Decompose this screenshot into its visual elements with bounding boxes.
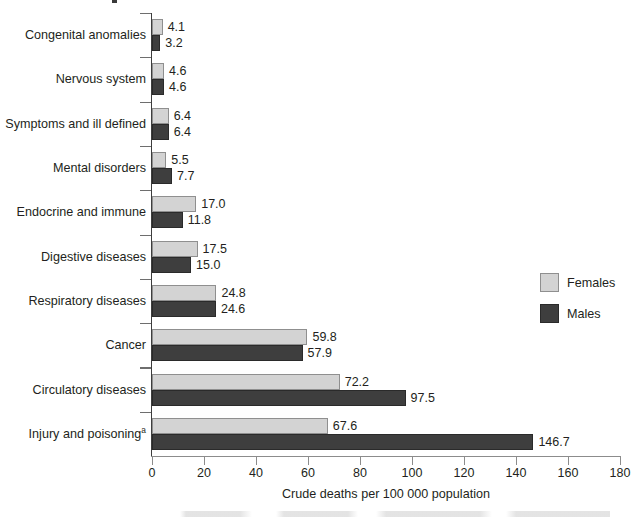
bar-value-label: 6.4 — [174, 125, 191, 139]
y-axis-category-label: Respiratory diseases — [28, 294, 146, 308]
x-axis-line — [151, 456, 621, 457]
x-axis-tick-label: 160 — [558, 466, 579, 480]
x-axis-tick-label: 100 — [402, 466, 423, 480]
bar-females — [152, 418, 328, 434]
bar-females — [152, 374, 340, 390]
x-axis-tick-label: 140 — [506, 466, 527, 480]
bar-value-label: 4.1 — [168, 20, 185, 34]
y-axis-tick — [140, 13, 151, 14]
bar-value-label: 4.6 — [169, 80, 186, 94]
bar-males — [152, 345, 303, 361]
bar-males — [152, 257, 191, 273]
bar-males — [152, 301, 216, 317]
x-axis-tick — [152, 457, 153, 465]
y-axis-tick — [140, 367, 151, 368]
x-axis-tick — [308, 457, 309, 465]
y-axis-tick — [140, 235, 151, 236]
chart-page: Congenital anomaliesNervous systemSympto… — [0, 0, 641, 519]
y-axis-category-label: Injury and poisoninga — [29, 427, 146, 441]
bar-males — [152, 79, 164, 95]
y-axis-category-label: Digestive diseases — [41, 250, 146, 264]
bar-females — [152, 108, 169, 124]
bar-males — [152, 212, 183, 228]
bar-females — [152, 19, 163, 35]
bar-males — [152, 168, 172, 184]
x-axis-tick-label: 60 — [301, 466, 315, 480]
bar-value-label: 6.4 — [174, 109, 191, 123]
cropped-caption-artifact — [180, 511, 610, 517]
y-axis-category-label: Nervous system — [56, 72, 146, 86]
bar-value-label: 5.5 — [171, 153, 188, 167]
bar-value-label: 17.0 — [201, 197, 225, 211]
y-axis-tick — [140, 102, 151, 103]
legend-swatch-females-icon — [540, 273, 559, 292]
x-axis-title: Crude deaths per 100 000 population — [152, 487, 620, 501]
y-axis-category-label: Mental disorders — [53, 161, 146, 175]
bar-value-label: 59.8 — [312, 330, 336, 344]
bar-males — [152, 35, 160, 51]
x-axis-tick — [360, 457, 361, 465]
bar-value-label: 57.9 — [308, 346, 332, 360]
bar-value-label: 17.5 — [203, 242, 227, 256]
bar-value-label: 24.6 — [221, 302, 245, 316]
legend-label-males: Males — [567, 307, 601, 321]
bar-males — [152, 434, 533, 450]
y-axis-category-labels: Congenital anomaliesNervous systemSympto… — [0, 0, 146, 519]
bar-males — [152, 124, 169, 140]
bar-males — [152, 390, 406, 406]
bar-value-label: 4.6 — [169, 64, 186, 78]
bar-value-label: 146.7 — [538, 435, 569, 449]
bar-females — [152, 285, 216, 301]
y-axis-tick — [140, 279, 151, 280]
x-axis-tick — [204, 457, 205, 465]
bar-value-label: 7.7 — [177, 169, 194, 183]
y-axis-tick — [140, 412, 151, 413]
y-axis-category-label: Symptoms and ill defined — [5, 117, 146, 131]
bar-females — [152, 152, 166, 168]
y-axis-tick — [140, 146, 151, 147]
bar-value-label: 24.8 — [221, 286, 245, 300]
y-axis-category-label: Circulatory diseases — [33, 383, 146, 397]
bar-females — [152, 241, 198, 257]
y-axis-category-label: Endocrine and immune — [16, 205, 146, 219]
bar-value-label: 15.0 — [196, 258, 220, 272]
legend-item-males: Males — [540, 304, 615, 323]
x-axis-tick — [464, 457, 465, 465]
x-axis-tick — [620, 457, 621, 465]
x-axis-tick-label: 40 — [249, 466, 263, 480]
x-axis-tick-label: 180 — [610, 466, 631, 480]
bar-value-label: 72.2 — [345, 375, 369, 389]
bar-females — [152, 329, 307, 345]
legend-swatch-males-icon — [540, 304, 559, 323]
footnote-marker: a — [141, 425, 146, 435]
legend-item-females: Females — [540, 273, 615, 292]
bar-value-label: 3.2 — [165, 36, 182, 50]
bar-females — [152, 63, 164, 79]
bar-value-label: 11.8 — [188, 213, 211, 227]
x-axis-tick — [568, 457, 569, 465]
legend-label-females: Females — [567, 276, 615, 290]
y-axis-tick — [140, 190, 151, 191]
x-axis-tick-label: 0 — [149, 466, 156, 480]
bar-value-label: 67.6 — [333, 419, 357, 433]
x-axis-tick — [516, 457, 517, 465]
legend: Females Males — [540, 273, 615, 335]
bar-females — [152, 196, 196, 212]
x-axis-tick-label: 80 — [353, 466, 367, 480]
y-axis-tick — [140, 323, 151, 324]
y-axis-category-label: Congenital anomalies — [25, 28, 146, 42]
x-axis-tick-label: 120 — [454, 466, 475, 480]
x-axis-tick — [412, 457, 413, 465]
x-axis-tick — [256, 457, 257, 465]
bar-value-label: 97.5 — [411, 391, 435, 405]
y-axis-category-label: Cancer — [105, 338, 146, 352]
x-axis-tick-label: 20 — [197, 466, 211, 480]
y-axis-tick — [140, 57, 151, 58]
